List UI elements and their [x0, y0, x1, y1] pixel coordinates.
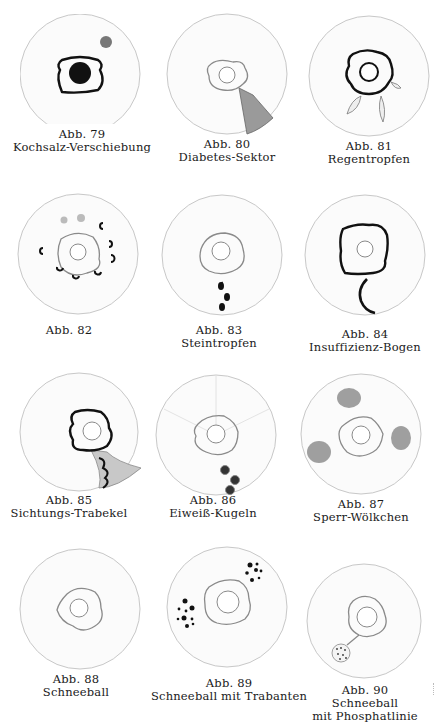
figure-title: Diabetes-Sektor — [179, 151, 276, 164]
iris-diagram-81 — [307, 14, 431, 138]
caption-84: Abb. 84 Insuffizienz-Bogen — [309, 328, 421, 354]
iris-diagram-80 — [165, 12, 289, 136]
figure-83 — [161, 193, 283, 317]
protein-sphere-icon — [221, 466, 230, 475]
figure-title: Insuffizienz-Bogen — [309, 341, 421, 354]
iris-diagram-89 — [165, 545, 289, 669]
figure-title: Schneeball mit Trabanten — [151, 690, 307, 703]
caption-80: Abb. 80 Diabetes-Sektor — [179, 138, 276, 164]
cloud-patch-icon — [337, 388, 361, 408]
caption-90: Abb. 90 Schneeball mit Phosphatlinie — [312, 684, 418, 723]
caption-83: Abb. 83 Steintropfen — [181, 324, 257, 350]
figure-title: Eiweiß-Kugeln — [169, 507, 257, 520]
caption-85: Abb. 85 Sichtungs-Trabekel — [11, 494, 128, 520]
figure-title: Kochsalz-Verschiebung — [13, 141, 151, 154]
figure-88 — [19, 548, 141, 670]
iris-diagram-79 — [20, 14, 142, 124]
stone-drop-icon — [219, 303, 225, 311]
caption-89: Abb. 89 Schneeball mit Trabanten — [151, 677, 307, 703]
figure-80 — [165, 12, 289, 136]
caption-86: Abb. 86 Eiweiß-Kugeln — [169, 494, 257, 520]
figure-title: Regentropfen — [328, 153, 410, 166]
figure-81 — [307, 14, 431, 138]
figure-89 — [165, 545, 289, 669]
iris-diagram-90 — [303, 563, 425, 681]
fleck-icon — [100, 36, 112, 48]
caption-88: Abb. 88 Schneeball — [43, 673, 109, 699]
cloud-patch-icon — [307, 441, 331, 463]
figure-85 — [17, 372, 141, 492]
caption-82: Abb. 82 — [46, 324, 92, 337]
figure-label: Abb. 82 — [46, 324, 92, 337]
stone-drop-icon — [218, 282, 224, 290]
figure-title: Steintropfen — [181, 337, 257, 350]
iris-diagram-88 — [19, 548, 141, 670]
figure-title-line2: mit Phosphatlinie — [312, 710, 418, 723]
page-edge-mark — [433, 683, 437, 695]
stone-drop-icon — [224, 293, 230, 301]
cloud-patch-icon — [391, 426, 411, 450]
iris-diagram-86 — [154, 374, 278, 496]
iris-diagram-87 — [299, 372, 423, 496]
figure-90 — [303, 563, 425, 681]
figure-87 — [299, 372, 423, 496]
figure-title: Sperr-Wölkchen — [313, 511, 409, 524]
figure-84 — [303, 193, 427, 317]
iris-diagram-84 — [303, 193, 427, 317]
protein-sphere-icon — [231, 476, 240, 485]
caption-79: Abb. 79 Kochsalz-Verschiebung — [13, 128, 151, 154]
figure-86 — [154, 374, 278, 496]
figure-title: Schneeball — [43, 686, 109, 699]
iris-diagram-85 — [17, 372, 141, 492]
caption-81: Abb. 81 Regentropfen — [328, 140, 410, 166]
iris-diagram-83 — [161, 193, 283, 317]
black-pupil-icon — [69, 62, 91, 84]
iris-diagram-82 — [17, 193, 139, 315]
figure-79 — [20, 14, 142, 124]
caption-87: Abb. 87 Sperr-Wölkchen — [313, 498, 409, 524]
figure-82 — [17, 193, 139, 315]
snowball-icon — [332, 644, 350, 662]
figure-title: Sichtungs-Trabekel — [11, 507, 128, 520]
